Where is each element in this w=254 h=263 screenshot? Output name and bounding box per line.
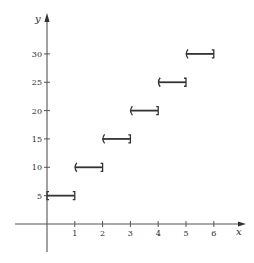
step-segment [130,106,158,115]
x-axis-label: x [236,226,242,237]
y-tick-label: 15 [32,135,42,144]
y-axis-arrow-icon [44,13,49,22]
x-tick-label: 4 [156,229,161,238]
step-segment [75,163,103,172]
y-axis-label: y [34,13,41,24]
x-tick-label: 6 [211,229,216,238]
y-tick-label: 5 [37,192,42,201]
step-segments [47,49,214,199]
step-segment [103,134,131,143]
axes [15,13,246,252]
y-tick-label: 20 [32,107,42,116]
x-tick-label: 2 [100,229,105,238]
step-segment [158,78,186,87]
x-tick-label: 5 [183,229,188,238]
step-segment [47,192,75,200]
ticks: 12345651015202530 [32,50,217,238]
step-segment [186,49,214,58]
y-tick-label: 10 [32,163,42,172]
x-tick-label: 1 [72,229,77,238]
x-tick-label: 3 [128,229,133,238]
step-function-chart: 12345651015202530 x y [0,0,254,263]
y-tick-label: 30 [32,50,42,59]
y-tick-label: 25 [32,78,42,87]
